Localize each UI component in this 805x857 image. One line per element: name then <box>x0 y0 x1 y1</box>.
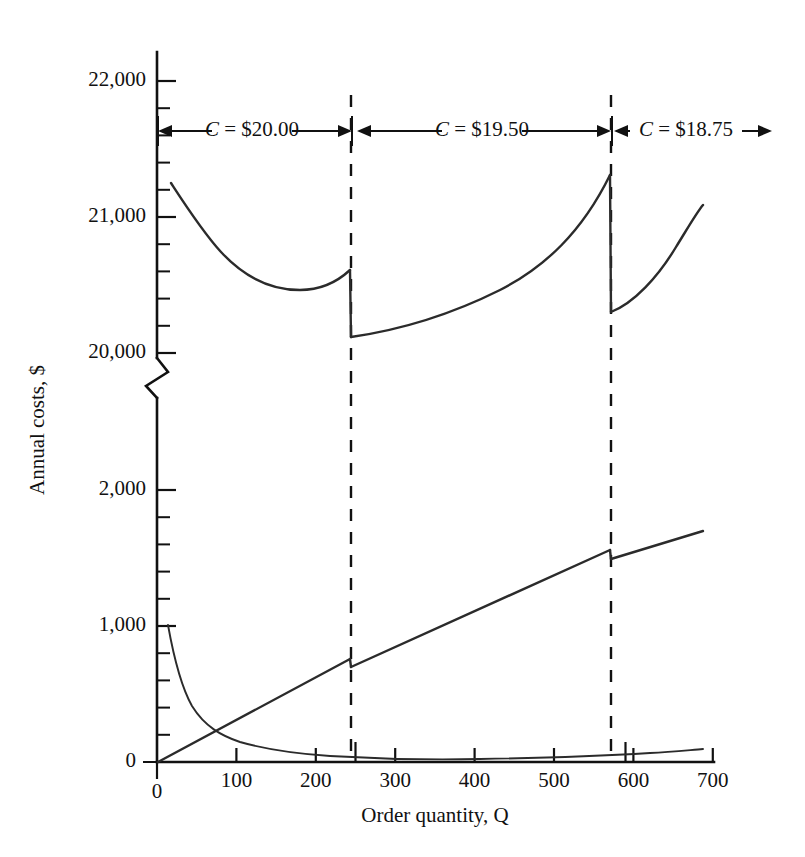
total-cost-segment-band3 <box>611 205 703 312</box>
y-tick-label-2000: 2,000 <box>99 476 146 500</box>
band2-left-arrow-icon <box>357 125 371 137</box>
x-axis-title: Order quantity, Q <box>361 803 508 827</box>
total-cost-drop-590 <box>610 175 611 312</box>
price-band-1: C = $20.00 <box>158 117 352 141</box>
eoq-quantity-discount-chart: 22,000 21,000 20,000 2,000 1,000 0 <box>0 0 805 857</box>
ordering-cost-curve <box>168 625 703 759</box>
x-tick-label-100: 100 <box>221 768 253 792</box>
y-tick-label-21000: 21,000 <box>88 203 146 227</box>
band3-value: = $18.75 <box>653 117 733 141</box>
price-band-2: C = $19.50 <box>357 117 611 141</box>
band1-c-symbol: C <box>205 117 220 141</box>
y-axis-upper: 22,000 21,000 20,000 <box>88 52 176 363</box>
y-axis-lower: 2,000 1,000 0 <box>99 398 176 772</box>
x-axis: 0 100 200 300 400 500 600 700 <box>152 742 729 803</box>
x-tick-label-200: 200 <box>300 768 332 792</box>
holding-cost-segment-band2 <box>351 550 610 667</box>
holding-cost-segment-band3 <box>611 531 703 559</box>
y-axis-title: Annual costs, $ <box>25 365 49 495</box>
holding-cost-step-590 <box>610 550 611 559</box>
total-cost-drop-250 <box>350 270 351 337</box>
x-tick-label-700: 700 <box>697 768 729 792</box>
band3-left-arrow-icon <box>614 125 628 137</box>
y-tick-label-20000: 20,000 <box>88 339 146 363</box>
y-tick-label-22000: 22,000 <box>88 67 146 91</box>
price-band-3-label: C = $18.75 <box>639 117 733 141</box>
x-tick-label-600: 600 <box>618 768 650 792</box>
total-cost-segment-band1 <box>171 183 350 290</box>
price-band-annotations: C = $20.00 C = $19.50 C = $18.75 <box>158 116 772 146</box>
holding-cost-line <box>158 531 703 762</box>
band2-value: = $19.50 <box>449 117 529 141</box>
x-tick-label-400: 400 <box>459 768 491 792</box>
price-band-3: C = $18.75 <box>614 117 772 141</box>
x-tick-label-500: 500 <box>538 768 570 792</box>
price-band-2-label: C = $19.50 <box>435 117 529 141</box>
band2-c-symbol: C <box>435 117 450 141</box>
axis-break-marker <box>146 358 168 398</box>
x-tick-label-0: 0 <box>152 779 163 803</box>
band1-value: = $20.00 <box>219 117 299 141</box>
total-cost-segment-band2 <box>351 175 610 337</box>
band2-right-arrow-icon <box>597 125 611 137</box>
y-tick-label-0: 0 <box>126 748 137 772</box>
band3-right-arrow-icon <box>758 125 772 137</box>
zigzag-icon <box>146 358 168 398</box>
x-tick-label-300: 300 <box>379 768 411 792</box>
total-cost-curve <box>171 175 703 337</box>
price-band-1-label: C = $20.00 <box>205 117 299 141</box>
chart-container: 22,000 21,000 20,000 2,000 1,000 0 <box>0 0 805 857</box>
y-tick-label-1000: 1,000 <box>99 612 146 636</box>
band3-c-symbol: C <box>639 117 654 141</box>
